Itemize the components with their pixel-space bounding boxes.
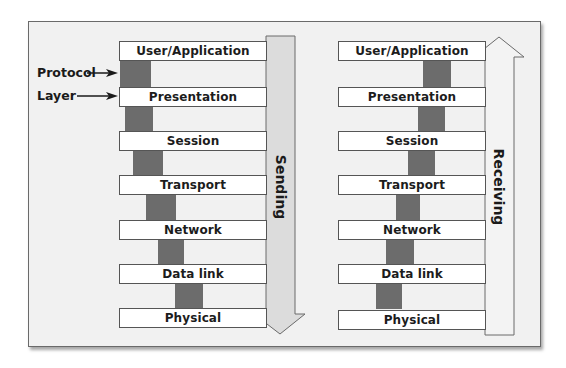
layer-box-receiving-physical: Physical (338, 310, 486, 330)
layer-box-receiving-network: Network (338, 220, 486, 240)
osi-diagram: Sending User/Application Presentation Se… (0, 0, 566, 368)
layer-box-receiving-transport: Transport (338, 175, 486, 195)
layer-box-receiving-datalink: Data link (338, 264, 486, 284)
receiving-label: Receiving (490, 147, 508, 227)
layer-box-receiving-session: Session (338, 131, 486, 151)
layer-box-receiving-presentation: Presentation (338, 87, 486, 107)
layer-box-receiving-application: User/Application (338, 41, 486, 61)
